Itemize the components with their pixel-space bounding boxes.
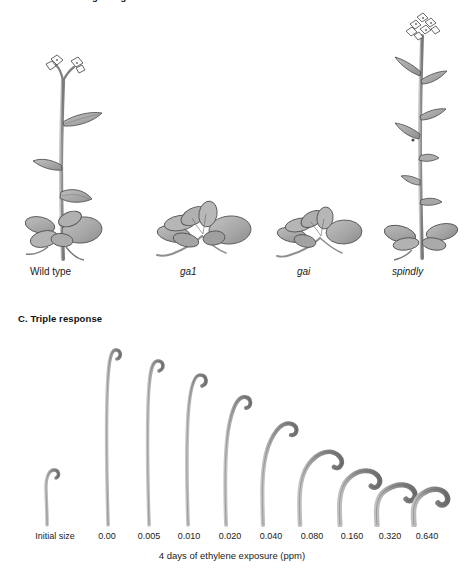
panel-b-gibberellin-mutants: Wild type ga1 gai spindly [0, 0, 464, 300]
x-axis-caption: 4 days of ethylene exposure (ppm) [0, 550, 464, 561]
genotype-label-ga1: ga1 [180, 266, 197, 277]
gai-illustration [272, 198, 376, 262]
spindly-illustration [376, 10, 464, 262]
seedling-0640 [403, 481, 455, 527]
plant-wild-type [18, 47, 138, 262]
figure-root: B. Gibberellin signaling mutants [0, 0, 464, 579]
panel-c-triple-response [0, 325, 464, 530]
seedling-illustration [88, 339, 132, 527]
seedling-illustration [130, 351, 174, 527]
seedling-000 [88, 339, 132, 527]
seedling-initial-size [30, 457, 70, 527]
panel-c-title: C. Triple response [18, 313, 102, 324]
genotype-label-spindly: spindly [392, 266, 423, 277]
genotype-label-gai: gai [297, 266, 310, 277]
tick-label-0640: 0.640 [402, 531, 452, 541]
tick-label-initial-size: Initial size [22, 531, 88, 541]
seedling-0005 [130, 351, 174, 527]
seedling-illustration [30, 457, 70, 527]
wild-type-illustration [18, 47, 134, 262]
seedling-illustration [403, 481, 455, 527]
plant-gai [272, 198, 392, 262]
ga1-illustration [150, 192, 262, 262]
plant-ga1 [150, 192, 270, 262]
plant-spindly [376, 10, 464, 262]
genotype-label-wild-type: Wild type [30, 266, 71, 277]
